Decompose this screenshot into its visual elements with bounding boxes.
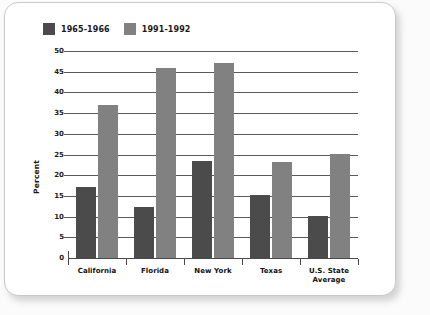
bar[interactable] <box>250 195 270 258</box>
legend-swatch-dark-icon <box>43 23 55 35</box>
y-tick-label: 45 <box>44 68 64 76</box>
bar[interactable] <box>330 154 350 258</box>
bar[interactable] <box>76 187 96 258</box>
legend-label-1991-1992: 1991-1992 <box>142 25 191 34</box>
x-tick-mark <box>184 259 185 265</box>
chart-card: 1965-1966 1991-1992 Percent 504540353025… <box>4 2 396 296</box>
bar[interactable] <box>214 63 234 258</box>
bar-group <box>126 51 184 258</box>
y-tick-label: 30 <box>44 130 64 138</box>
y-tick-label: 40 <box>44 88 64 96</box>
plot-canvas <box>68 51 358 259</box>
bar[interactable] <box>156 68 176 258</box>
legend-swatch-light-icon <box>124 23 136 35</box>
x-axis-category-label: Texas <box>242 267 300 286</box>
y-axis-title: Percent <box>32 147 44 207</box>
legend-item-1965-1966[interactable]: 1965-1966 <box>43 23 110 35</box>
y-tick-label: 50 <box>44 47 64 55</box>
y-tick-label: 35 <box>44 109 64 117</box>
legend-item-1991-1992[interactable]: 1991-1992 <box>124 23 191 35</box>
y-tick-label: 10 <box>44 213 64 221</box>
x-tick-mark <box>300 259 301 265</box>
x-axis-category-label: Florida <box>126 267 184 286</box>
x-tick-mark <box>68 259 69 265</box>
bar[interactable] <box>308 216 328 258</box>
screenshot-root: 1965-1966 1991-1992 Percent 504540353025… <box>0 0 430 315</box>
bar[interactable] <box>272 162 292 258</box>
legend-label-1965-1966: 1965-1966 <box>61 25 110 34</box>
x-axis-category-label: U.S. StateAverage <box>300 267 358 286</box>
bar-groups <box>68 51 358 258</box>
x-tick-mark <box>358 259 359 265</box>
plot-area: Percent 50454035302520151050 CaliforniaF… <box>32 51 377 301</box>
y-axis-line <box>68 251 69 259</box>
bar[interactable] <box>134 207 154 258</box>
x-axis-ticks <box>68 259 358 265</box>
bar[interactable] <box>192 161 212 258</box>
bar-group <box>242 51 300 258</box>
y-axis-tick-labels: 50454035302520151050 <box>44 51 64 259</box>
y-tick-label: 5 <box>44 233 64 241</box>
bar-group <box>68 51 126 258</box>
chart-legend: 1965-1966 1991-1992 <box>43 23 191 35</box>
y-tick-label: 15 <box>44 192 64 200</box>
x-tick-mark <box>126 259 127 265</box>
bar-group <box>300 51 358 258</box>
y-tick-label: 0 <box>44 254 64 262</box>
x-axis-category-label: New York <box>184 267 242 286</box>
bar-group <box>184 51 242 258</box>
bar[interactable] <box>98 105 118 258</box>
x-tick-mark <box>242 259 243 265</box>
y-tick-label: 25 <box>44 151 64 159</box>
y-tick-label: 20 <box>44 171 64 179</box>
x-axis-category-label: California <box>68 267 126 286</box>
x-axis-labels: CaliforniaFloridaNew YorkTexasU.S. State… <box>68 267 358 286</box>
